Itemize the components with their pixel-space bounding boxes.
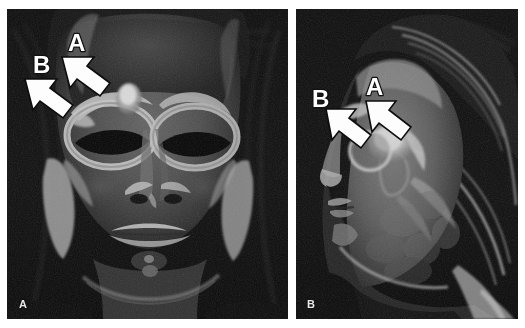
panel-gutter (288, 9, 296, 319)
panel-a-letter: A (19, 299, 27, 310)
panel-b-letter: B (307, 299, 315, 310)
panel-b-lateral-view: A B B (296, 9, 518, 319)
panel-a-image (7, 9, 288, 319)
panel-b-image (296, 9, 518, 319)
panel-a-frontal-view: A B A (7, 9, 288, 319)
figure-root: A B A (0, 0, 525, 328)
